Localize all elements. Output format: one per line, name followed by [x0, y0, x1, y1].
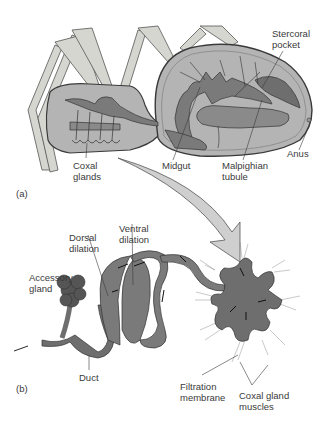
panel-b-marker: (b) — [16, 383, 28, 394]
tubule-to-sacculus — [160, 255, 225, 291]
panel-a-marker: (a) — [16, 188, 28, 199]
label-duct: Duct — [79, 372, 99, 383]
label-anus: Anus — [287, 148, 309, 159]
label-malpighian-tubule: Malpighian tubule — [222, 160, 268, 182]
label-dorsal-dilation: Dorsal dilation — [69, 232, 99, 254]
label-coxal-glands: Coxal glands — [73, 160, 101, 182]
label-coxal-gland-muscles: Coxal gland muscles — [239, 390, 289, 412]
label-ventral-dilation: Ventral dilation — [119, 223, 149, 245]
label-filtration-membrane: Filtration membrane — [180, 381, 225, 403]
filtration-sacculus — [195, 242, 300, 362]
label-accessory-gland: Accessory gland — [29, 272, 73, 294]
coxal-gland-diagram — [0, 0, 328, 425]
ventral-dilation — [122, 258, 150, 343]
label-stercoral-pocket: Stercoral pocket — [272, 28, 310, 50]
label-midgut: Midgut — [162, 160, 191, 171]
anus-opening — [307, 118, 311, 122]
